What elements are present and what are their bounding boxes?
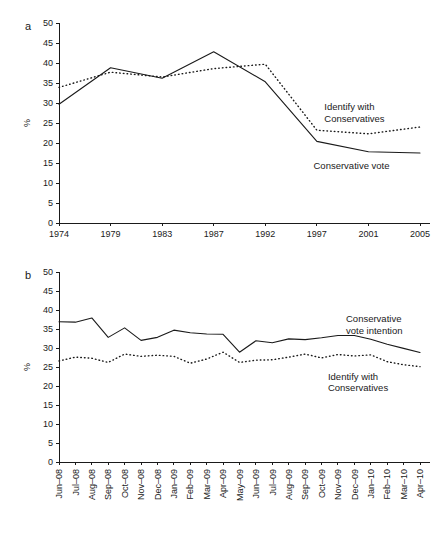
y-axis-tick-label: 30 bbox=[43, 343, 53, 353]
y-axis-tick-label: 45 bbox=[43, 38, 53, 48]
x-axis-tick-label: Oct–08 bbox=[120, 469, 130, 498]
x-axis-tick-label: May–09 bbox=[235, 469, 245, 501]
series-annotation: Conservatives bbox=[324, 113, 384, 124]
y-axis-tick-label: 40 bbox=[43, 58, 53, 68]
x-axis-tick-label: Apr–09 bbox=[218, 469, 228, 498]
y-axis-tick-label: 15 bbox=[43, 400, 53, 410]
y-axis-tick-label: 35 bbox=[43, 78, 53, 88]
y-axis-tick-label: 5 bbox=[48, 198, 53, 208]
x-axis-tick-label: Dec–09 bbox=[350, 469, 360, 500]
x-axis-tick-label: Jan–10 bbox=[366, 469, 376, 499]
x-axis-tick-label: Oct–09 bbox=[317, 469, 327, 498]
panel-a-plot: a051015202530354045501974197919831987199… bbox=[0, 0, 444, 268]
y-axis-tick-label: 10 bbox=[43, 419, 53, 429]
x-axis-tick-label: 1979 bbox=[101, 229, 121, 239]
x-axis-tick-label: 2005 bbox=[410, 229, 430, 239]
y-axis-tick-label: 0 bbox=[48, 457, 53, 467]
chart-panel-a: a051015202530354045501974197919831987199… bbox=[0, 0, 444, 268]
series-annotation: Identify with bbox=[324, 101, 374, 112]
series-annotation: vote intention bbox=[346, 325, 403, 336]
y-axis-tick-label: 45 bbox=[43, 286, 53, 296]
y-axis-title: % bbox=[22, 119, 32, 127]
panel-letter: a bbox=[25, 20, 32, 32]
x-axis-tick-label: Feb–10 bbox=[382, 469, 392, 500]
x-axis-tick-label: Mar–09 bbox=[202, 469, 212, 500]
y-axis-tick-label: 20 bbox=[43, 138, 53, 148]
x-axis-tick-label: 1992 bbox=[255, 229, 275, 239]
figure-container: a051015202530354045501974197919831987199… bbox=[0, 0, 444, 536]
x-axis-tick-label: 2001 bbox=[358, 229, 378, 239]
y-axis-tick-label: 10 bbox=[43, 178, 53, 188]
y-axis-tick-label: 50 bbox=[43, 268, 53, 277]
series-annotation: Conservatives bbox=[328, 382, 388, 393]
x-axis-tick-label: Jun–08 bbox=[54, 469, 64, 499]
x-axis-tick-label: Nov–08 bbox=[136, 469, 146, 500]
x-axis-tick-label: Aug–09 bbox=[284, 469, 294, 500]
y-axis-tick-label: 25 bbox=[43, 362, 53, 372]
x-axis-tick-label: Feb–09 bbox=[185, 469, 195, 500]
panel-b-plot: b05101520253035404550Jun–08Jul–08Aug–08S… bbox=[0, 268, 444, 536]
y-axis-tick-label: 15 bbox=[43, 158, 53, 168]
y-axis-title: % bbox=[22, 363, 32, 371]
y-axis-tick-label: 20 bbox=[43, 381, 53, 391]
x-axis-tick-label: 1983 bbox=[152, 229, 172, 239]
x-axis-tick-label: Dec–08 bbox=[153, 469, 163, 500]
series-line-dotted bbox=[59, 352, 420, 366]
x-axis-tick-label: Jul–09 bbox=[268, 469, 278, 496]
x-axis-tick-label: Mar–10 bbox=[399, 469, 409, 500]
x-axis-tick-label: Aug–08 bbox=[87, 469, 97, 500]
y-axis-tick-label: 30 bbox=[43, 98, 53, 108]
series-annotation: Conservative bbox=[346, 313, 401, 324]
series-annotation: Conservative vote bbox=[314, 160, 390, 171]
series-annotation: Identify with bbox=[328, 371, 378, 382]
x-axis-tick-label: 1997 bbox=[307, 229, 327, 239]
x-axis-tick-label: Sep–09 bbox=[300, 469, 310, 500]
x-axis-tick-label: Jul–08 bbox=[71, 469, 81, 496]
y-axis-tick-label: 25 bbox=[43, 118, 53, 128]
y-axis-tick-label: 0 bbox=[48, 218, 53, 228]
x-axis-tick-label: Nov–09 bbox=[333, 469, 343, 500]
x-axis-tick-label: 1987 bbox=[204, 229, 224, 239]
chart-panel-b: b05101520253035404550Jun–08Jul–08Aug–08S… bbox=[0, 268, 444, 536]
y-axis-tick-label: 5 bbox=[48, 438, 53, 448]
x-axis-tick-label: Sep–08 bbox=[103, 469, 113, 500]
x-axis-tick-label: Apr–10 bbox=[415, 469, 425, 498]
y-axis-tick-label: 50 bbox=[43, 18, 53, 28]
x-axis-tick-label: Jun–09 bbox=[251, 469, 261, 499]
y-axis-tick-label: 35 bbox=[43, 324, 53, 334]
y-axis-tick-label: 40 bbox=[43, 305, 53, 315]
panel-letter: b bbox=[25, 269, 31, 281]
x-axis-tick-label: Jan–09 bbox=[169, 469, 179, 499]
x-axis-tick-label: 1974 bbox=[49, 229, 69, 239]
